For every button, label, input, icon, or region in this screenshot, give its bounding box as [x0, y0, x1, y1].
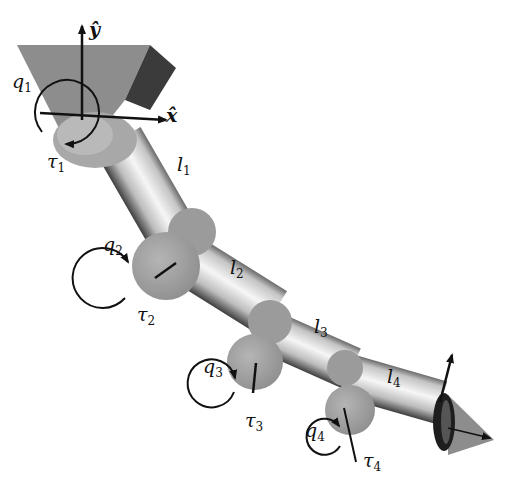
- joint-1-angle-label: q1: [12, 72, 32, 94]
- x-axis-label: x̂: [166, 106, 177, 125]
- joint-2-torque-label: τ2: [137, 305, 155, 327]
- link-1-label: l1: [177, 155, 191, 177]
- link-3-label: l3: [314, 317, 328, 339]
- joint-2-angle-label: q2: [103, 235, 123, 257]
- joint-4-torque-label: τ4: [363, 451, 381, 473]
- y-axis-label: ŷ: [89, 20, 100, 39]
- joint-3-angle-label: q3: [203, 357, 223, 379]
- joint-1-torque-label: τ1: [47, 152, 65, 174]
- joint-1: [53, 112, 137, 168]
- joint-3-torque-label: τ3: [245, 411, 263, 433]
- end-effector: [433, 355, 494, 455]
- link-2-label: l2: [230, 258, 244, 280]
- robot-arm-diagram: ŷ x̂ q1 τ1 q2 τ2 q3 τ3 q4 τ4 l1 l2 l3 l4: [0, 0, 520, 483]
- joint-4-angle-label: q4: [305, 421, 325, 443]
- link-4-label: l4: [387, 367, 401, 389]
